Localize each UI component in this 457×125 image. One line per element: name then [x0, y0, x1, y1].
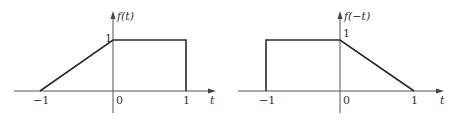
- plot-f-t: f(t) 1 −1 0 1 t: [14, 10, 216, 113]
- y-axis-arrow-icon: [338, 11, 343, 19]
- x-axis-arrow-icon: [436, 89, 444, 94]
- x-axis-label: t: [210, 94, 215, 107]
- diagram-canvas: f(t) 1 −1 0 1 t f(−t) 1 −1 0 1 t: [0, 0, 457, 125]
- function-label: f(−t): [343, 10, 370, 23]
- x-tick-zero: 0: [343, 94, 350, 107]
- x-tick-neg-one: −1: [259, 94, 275, 107]
- x-axis-arrow-icon: [208, 89, 216, 94]
- function-label: f(t): [116, 10, 134, 23]
- x-tick-neg-one: −1: [33, 94, 49, 107]
- y-axis-arrow-icon: [111, 11, 116, 19]
- x-axis-label: t: [440, 94, 445, 107]
- x-tick-one: 1: [411, 94, 418, 107]
- y-tick-one: 1: [343, 27, 350, 40]
- plot-f-neg-t: f(−t) 1 −1 0 1 t: [238, 10, 445, 113]
- y-tick-one: 1: [105, 32, 112, 45]
- x-tick-zero: 0: [116, 94, 123, 107]
- x-tick-one: 1: [183, 94, 190, 107]
